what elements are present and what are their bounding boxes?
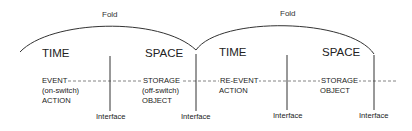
off-switch-label: (off-switch) [142,86,181,96]
object-label-1: OBJECT [142,96,181,106]
section-text-event: EVENT (on-switch) ACTION [42,76,79,106]
section-heading-space-2: SPACE [322,47,360,59]
storage-label-1: STORAGE [142,76,181,85]
interface-label-4: Interface [359,112,389,120]
section-heading-time-2: TIME [219,47,246,59]
action-label-2: ACTION [219,86,259,96]
object-label-2: OBJECT [320,86,359,96]
section-heading-space-1: SPACE [145,48,183,60]
re-event-label: RE-EVENT [219,76,259,85]
section-text-storage-2: STORAGE OBJECT [320,76,359,96]
event-label: EVENT [42,76,68,85]
fold-label-2: Fold [280,10,296,18]
section-heading-time-1: TIME [42,48,69,60]
section-text-storage-1: STORAGE (off-switch) OBJECT [142,76,181,106]
storage-label-2: STORAGE [320,76,359,85]
on-switch-label: (on-switch) [42,86,79,96]
interface-label-3: Interface [273,112,303,120]
fold-label-1: Fold [102,11,118,19]
section-text-re-event: RE-EVENT ACTION [219,76,259,96]
interface-label-2: Interface [181,113,211,121]
action-label: ACTION [42,96,79,106]
interface-label-1: Interface [96,113,126,121]
